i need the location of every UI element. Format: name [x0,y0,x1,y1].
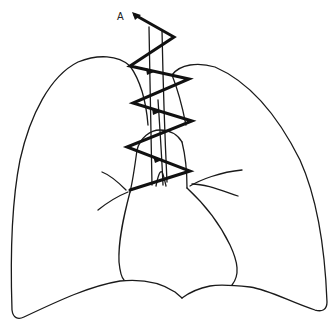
mediastinal-vessel-left [130,150,137,192]
left-hilar-branch-lower [98,192,128,210]
right-lung-outline [172,64,327,310]
left-hilar-branch-upper [102,172,126,190]
heart-left-border [119,192,130,280]
right-hilar-branch-upper [190,170,242,186]
heart-right-border [187,188,237,285]
label-a: A [117,11,124,22]
zigzag-suture-path [127,15,192,190]
mediastinal-vessel-right [182,142,187,188]
lung-diagram [0,0,336,335]
left-lung-outline [11,57,182,319]
diagram-canvas: A [0,0,336,335]
right-hilar-branch-lower [192,184,238,196]
left-lung-medial-edge [130,66,148,125]
